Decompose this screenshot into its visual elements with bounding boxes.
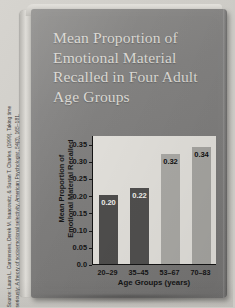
y-tick-label: 0.0 xyxy=(77,261,87,268)
paper-grain xyxy=(0,279,233,307)
bar-value-label: 0.22 xyxy=(130,191,150,200)
x-tick-label: 70–83 xyxy=(185,268,216,277)
bar xyxy=(161,154,181,264)
cover-title-line-1: Mean Proportion of xyxy=(53,28,219,48)
bar-chart: Mean Proportion of Emotional Material Re… xyxy=(47,131,219,293)
x-tick-label: 53–67 xyxy=(154,268,185,277)
bar-value-label: 0.20 xyxy=(99,198,119,207)
x-tick-label: 35–45 xyxy=(123,268,154,277)
y-tick-label: 0.10 xyxy=(73,227,87,234)
cover-title-line-4: Age Groups xyxy=(53,87,219,107)
y-tick-label: 0.15 xyxy=(73,210,87,217)
y-tick-label: 0.30 xyxy=(73,158,87,165)
cover-title-line-2: Emotional Material xyxy=(53,48,219,68)
y-tick-label: 0.05 xyxy=(73,244,87,251)
source-citation-line-1: Source: Laura L. Carstensen, Derek M. Is… xyxy=(6,8,14,308)
cover-title-line-3: Recalled in Four Adult xyxy=(53,67,219,87)
y-axis-tick-labels: 0.00.050.100.150.200.250.300.35 xyxy=(64,136,87,269)
y-tick-mark xyxy=(89,265,92,266)
y-tick-label: 0.20 xyxy=(73,193,87,200)
bar xyxy=(192,147,212,264)
cover-title: Mean Proportion of Emotional Material Re… xyxy=(53,28,219,106)
book-cover: Mean Proportion of Emotional Material Re… xyxy=(31,9,227,298)
bar-value-label: 0.32 xyxy=(161,157,181,166)
x-tick-label: 20–29 xyxy=(92,268,123,277)
plot-area: 0.200.220.320.34 xyxy=(92,136,216,265)
book-figure: Mean Proportion of Emotional Material Re… xyxy=(20,2,230,302)
y-tick-label: 0.25 xyxy=(73,175,87,182)
y-tick-label: 0.35 xyxy=(73,141,87,148)
bar-value-label: 0.34 xyxy=(192,150,212,159)
cover-right-edge xyxy=(223,9,227,298)
